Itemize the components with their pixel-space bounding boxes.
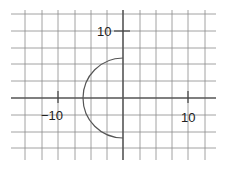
graph: 10 −10 10 <box>0 0 230 172</box>
x-tick-label-neg10: −10 <box>41 108 63 123</box>
x-tick-label-10: 10 <box>181 110 195 125</box>
y-tick-label-10: 10 <box>97 24 111 39</box>
